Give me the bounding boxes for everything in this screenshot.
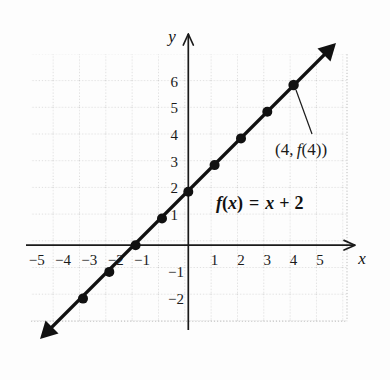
y-axis-label: y [166, 27, 176, 46]
data-point [78, 294, 88, 304]
eq-constant: 2 [295, 193, 304, 213]
y-tick-label: 3 [171, 154, 179, 170]
annotation-tail: (4)) [302, 140, 327, 159]
annotation-open: (4, [275, 140, 297, 159]
data-point [236, 133, 246, 143]
y-tick-label: −2 [168, 291, 184, 307]
x-tick-label: −5 [29, 252, 45, 268]
eq-var2: x [264, 193, 274, 213]
graph-figure: x y −5 −4 −3 −2 −1 1 2 3 4 5 6 5 4 3 2 1… [0, 0, 390, 380]
x-tick-label: 2 [237, 252, 245, 268]
eq-var1: x [227, 193, 237, 213]
y-tick-label: 4 [171, 127, 179, 143]
y-tick-label: 5 [171, 100, 179, 116]
eq-equals: = [249, 193, 259, 213]
coordinate-plane-svg: x y −5 −4 −3 −2 −1 1 2 3 4 5 6 5 4 3 2 1… [0, 0, 390, 380]
eq-plus: + [279, 193, 289, 213]
highlighted-data-point [288, 80, 298, 90]
data-point [210, 160, 220, 170]
x-tick-label: −2 [108, 252, 124, 268]
x-tick-label: 5 [316, 252, 324, 268]
x-tick-label: −1 [134, 252, 150, 268]
data-point [104, 267, 114, 277]
data-point [262, 107, 272, 117]
x-tick-label: 1 [211, 252, 219, 268]
y-tick-label: −1 [168, 264, 184, 280]
eq-close: ) [237, 193, 243, 214]
data-point [157, 214, 167, 224]
point-annotation-label: (4, f(4)) [275, 140, 327, 159]
x-tick-label: 3 [264, 252, 272, 268]
x-tick-label: −4 [55, 252, 71, 268]
x-axis-label: x [357, 249, 366, 268]
x-tick-label: 4 [290, 252, 298, 268]
x-tick-label: −3 [81, 252, 97, 268]
data-point [131, 240, 141, 250]
y-tick-label: 2 [171, 180, 179, 196]
data-point [183, 187, 193, 197]
y-tick-label: 6 [171, 74, 179, 90]
